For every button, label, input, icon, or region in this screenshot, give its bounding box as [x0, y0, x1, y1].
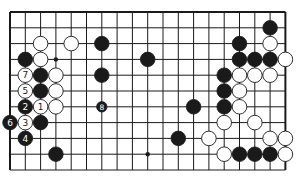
white-stone: [263, 131, 278, 146]
black-stone: [248, 52, 263, 67]
white-stone: [232, 84, 247, 99]
white-stone: [49, 68, 64, 83]
black-stone: [217, 100, 232, 115]
move-number: 2: [22, 102, 28, 112]
white-stone: [217, 115, 232, 130]
white-stone: [263, 68, 278, 83]
white-stone: [64, 36, 79, 51]
black-stone: [33, 115, 48, 130]
black-stone: [217, 84, 232, 99]
black-stone: [33, 84, 48, 99]
white-stone: [278, 131, 293, 146]
white-stone: [33, 36, 48, 51]
white-stone: [232, 68, 247, 83]
white-stone: [217, 147, 232, 162]
move-number: 7: [22, 70, 28, 80]
black-stone: [263, 52, 278, 67]
white-stone: [278, 147, 293, 162]
black-stone: [232, 52, 247, 67]
black-stone: [95, 68, 110, 83]
black-stone: [49, 147, 64, 162]
star-point: [54, 57, 58, 61]
white-stone: [49, 100, 64, 115]
black-stone: [263, 21, 278, 36]
go-board-diagram: 75218634: [0, 0, 297, 182]
white-stone-move-7: 7: [18, 68, 33, 83]
white-stone: [248, 68, 263, 83]
black-stone: [217, 68, 232, 83]
white-stone: [278, 52, 293, 67]
white-stone: [248, 115, 263, 130]
black-stone: [140, 52, 155, 67]
go-board: 75218634: [0, 0, 297, 182]
star-point: [146, 152, 150, 156]
black-stone: [33, 68, 48, 83]
black-stone: [186, 100, 201, 115]
black-stone: [171, 131, 186, 146]
move-number: 5: [22, 86, 28, 96]
black-stone-move-8: 8: [97, 102, 107, 112]
move-number: 6: [7, 118, 13, 128]
white-stone: [202, 131, 217, 146]
white-stone: [232, 100, 247, 115]
black-stone: [232, 36, 247, 51]
move-number: 1: [38, 102, 44, 112]
white-stone: [33, 52, 48, 67]
black-stone-move-2: 2: [18, 100, 33, 115]
white-stone-move-1: 1: [33, 100, 48, 115]
black-stone: [263, 147, 278, 162]
white-stone-move-5: 5: [18, 84, 33, 99]
black-stone: [248, 147, 263, 162]
black-stone: [232, 147, 247, 162]
black-stone: [95, 36, 110, 51]
move-number: 4: [22, 134, 28, 144]
white-stone-move-3: 3: [18, 115, 33, 130]
black-stone-move-6: 6: [3, 115, 18, 130]
white-stone: [263, 36, 278, 51]
move-number: 8: [99, 103, 104, 112]
black-stone: [18, 52, 33, 67]
white-stone: [49, 84, 64, 99]
black-stone-move-4: 4: [18, 131, 33, 146]
move-number: 3: [22, 118, 28, 128]
